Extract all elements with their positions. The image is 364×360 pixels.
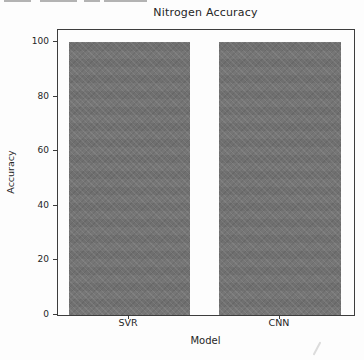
y-tick-mark — [53, 150, 57, 151]
y-tick-label: 40 — [19, 201, 49, 210]
cropped-text-dash — [104, 0, 147, 2]
y-tick-mark — [53, 314, 57, 315]
cropped-text-dash — [40, 0, 77, 2]
bar-cnn — [219, 42, 340, 315]
y-tick-mark — [53, 259, 57, 260]
y-tick-label: 100 — [19, 37, 49, 46]
x-tick-label-cnn: CNN — [249, 318, 309, 328]
bar-svr — [69, 42, 190, 315]
y-tick-mark — [53, 96, 57, 97]
x-tick-label-svr: SVR — [98, 318, 158, 328]
y-tick-mark — [53, 205, 57, 206]
cropped-text-dash — [84, 0, 100, 2]
y-tick-label: 0 — [19, 310, 49, 319]
cropped-text-dash — [4, 0, 31, 2]
plot-area — [57, 29, 355, 316]
y-tick-label: 80 — [19, 92, 49, 101]
y-tick-label: 60 — [19, 146, 49, 155]
bar-chart-figure: Nitrogen Accuracy 020406080100 SVRCNN Ac… — [0, 0, 364, 360]
chart-title: Nitrogen Accuracy — [57, 6, 354, 19]
y-tick-mark — [53, 41, 57, 42]
y-tick-label: 20 — [19, 255, 49, 264]
y-axis-label: Accuracy — [5, 150, 16, 193]
x-axis-label: Model — [57, 335, 354, 346]
